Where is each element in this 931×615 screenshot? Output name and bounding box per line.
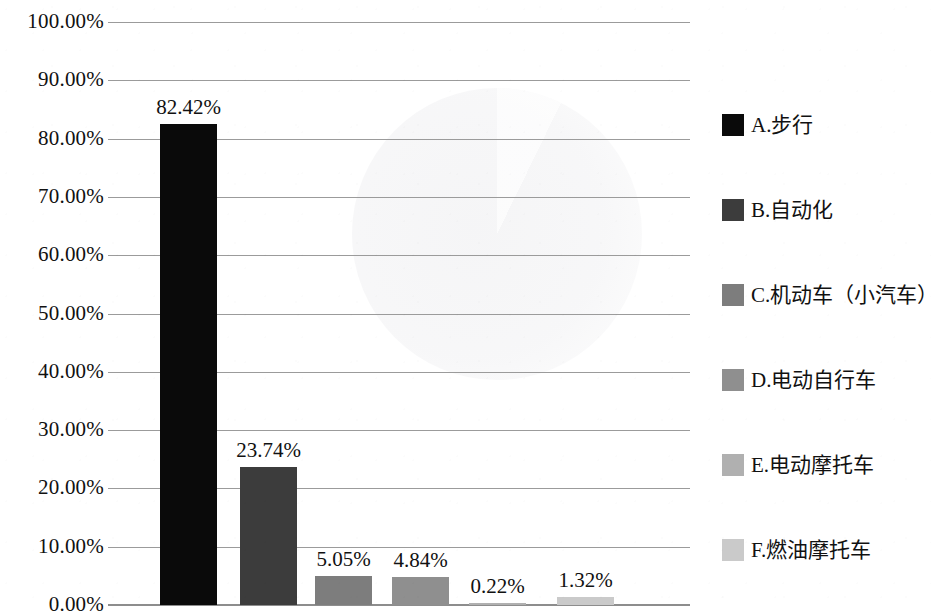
y-axis-tick-label: 0.00% [0,594,104,615]
chart-legend: A.步行B.自动化C.机动车（小汽车）D.电动自行车E.电动摩托车F.燃油摩托车 [722,0,931,615]
bar-1 [160,124,217,605]
legend-item[interactable]: F.燃油摩托车 [722,538,871,562]
y-axis-tick-label: 20.00% [0,477,104,498]
legend-item-label: A.步行 [751,114,813,137]
legend-item[interactable]: C.机动车（小汽车） [722,283,931,307]
bar-2 [240,467,297,605]
legend-item[interactable]: D.电动自行车 [722,368,876,392]
legend-item[interactable]: E.电动摩托车 [722,453,874,477]
legend-item-label: F.燃油摩托车 [751,539,871,562]
plot-area: 82.42%23.74%5.05%4.84%0.22%1.32% [108,0,690,615]
y-axis-tick-label: 10.00% [0,536,104,557]
y-axis-tick-label: 70.00% [0,186,104,207]
gridline [108,80,690,81]
y-axis-tick-label: 30.00% [0,419,104,440]
y-axis-tick-label: 80.00% [0,128,104,149]
gridline [108,22,690,23]
legend-item[interactable]: B.自动化 [722,198,833,222]
y-axis-tick-label: 60.00% [0,244,104,265]
bar-chart: 100.00%90.00%80.00%70.00%60.00%50.00%40.… [0,0,931,615]
legend-swatch-icon [722,199,744,221]
bar-value-label: 82.42% [128,97,249,118]
y-axis-tick-label: 50.00% [0,303,104,324]
y-axis-tick-label: 40.00% [0,361,104,382]
y-axis: 100.00%90.00%80.00%70.00%60.00%50.00%40.… [0,0,104,615]
bar-value-label: 1.32% [525,570,646,591]
legend-swatch-icon [722,539,744,561]
legend-swatch-icon [722,369,744,391]
bar-6 [557,597,614,605]
legend-swatch-icon [722,284,744,306]
legend-item-label: D.电动自行车 [751,369,876,392]
legend-item[interactable]: A.步行 [722,113,813,137]
bar-5 [469,603,526,605]
legend-item-label: C.机动车（小汽车） [751,284,931,307]
legend-item-label: E.电动摩托车 [751,454,874,477]
bar-3 [315,576,372,605]
y-axis-tick-label: 100.00% [0,11,104,32]
y-axis-tick-label: 90.00% [0,69,104,90]
bar-value-label: 4.84% [360,550,481,571]
bar-value-label: 23.74% [208,440,329,461]
legend-swatch-icon [722,454,744,476]
legend-swatch-icon [722,114,744,136]
legend-item-label: B.自动化 [751,199,833,222]
